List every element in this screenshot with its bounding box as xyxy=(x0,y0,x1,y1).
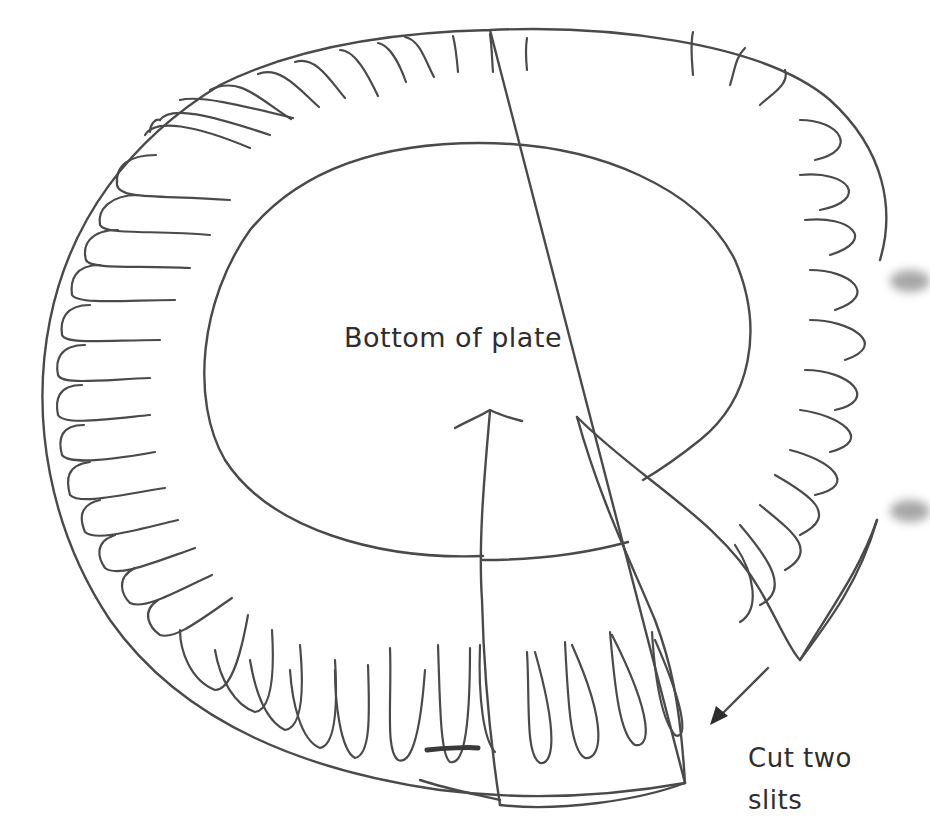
slit-right-cut xyxy=(577,417,685,783)
rim-flutes-right xyxy=(691,32,864,622)
plate-inner-well-right-segment xyxy=(483,542,628,560)
arrow-head-icon xyxy=(710,706,728,725)
label-bottom-of-plate: Bottom of plate xyxy=(344,322,562,353)
rim-flutes-top xyxy=(145,34,527,148)
label-cut-line1: Cut two xyxy=(748,737,852,779)
arrow-line xyxy=(716,668,768,720)
rim-flutes-bottom xyxy=(180,615,682,763)
pen-mark xyxy=(427,748,478,750)
label-cut-instruction: Cut two slits xyxy=(748,737,852,821)
label-cut-line2: slits xyxy=(748,779,852,821)
